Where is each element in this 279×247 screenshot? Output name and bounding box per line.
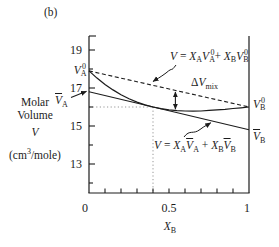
delta-vmix-label: ΔVmix [191,76,218,91]
y-tick-label: 19 [58,43,82,58]
real-solution-equation: V = XAVA + XBVB [154,139,236,154]
pure-molar-volume-B-label: VB0 [253,96,265,112]
y-tick-label: 15 [58,119,82,134]
figure-page: { "figure_label": "(b)", "colors": { "in… [0,0,279,247]
solution-curve [89,71,249,111]
real-equation-leader-arrow [184,123,211,137]
ideal-mixing-equation: V = XAVA0+ XBVB0 [170,48,248,64]
x-axis-label: XB [157,220,183,235]
x-tick-label: 0.5 [162,201,177,216]
ideal-equation-leader-arrow [153,65,176,82]
pure-molar-volume-A-label: VA0 [64,62,86,78]
partial-molar-volume-B-label: VB [253,130,265,145]
tangent-line [89,92,249,130]
figure-label: (b) [44,6,57,19]
ideal-mixing-line [89,71,249,107]
y-tick-label: 17 [58,81,82,96]
y-tick-label: 13 [58,157,82,172]
x-tick-label: 0 [82,201,88,216]
partial-molar-volume-A-label: VA [55,94,68,109]
x-tick-label: 1 [244,201,250,216]
